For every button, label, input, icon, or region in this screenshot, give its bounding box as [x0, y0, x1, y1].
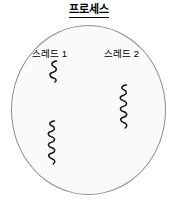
thread-2-execution-squiggle-icon	[117, 84, 131, 129]
page-title: 프로세스	[0, 2, 177, 18]
thread-1-execution-upper-squiggle-icon	[47, 60, 61, 83]
thread-2-label: 스레드 2	[104, 48, 139, 60]
process-thread-diagram: 프로세스 스레드 1 스레드 2	[0, 0, 177, 202]
page-title-text: 프로세스	[69, 2, 109, 18]
thread-1-label: 스레드 1	[32, 48, 67, 60]
thread-1-execution-lower-squiggle-icon	[45, 120, 59, 165]
